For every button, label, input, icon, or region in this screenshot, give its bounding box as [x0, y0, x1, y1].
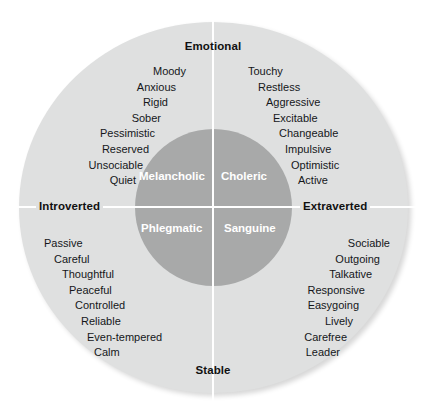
trait-item: Calm [44, 345, 214, 361]
trait-item: Peaceful [44, 283, 214, 299]
trait-list-choleric: TouchyRestlessAggressiveExcitableChangea… [248, 64, 416, 189]
trait-list-melancholic: MoodyAnxiousRigidSoberPessimisticReserve… [22, 64, 186, 189]
trait-item: Sociable [226, 236, 390, 252]
trait-item: Excitable [248, 111, 416, 127]
trait-item: Pessimistic [22, 126, 186, 142]
trait-item: Rigid [22, 95, 186, 111]
trait-item: Anxious [22, 80, 186, 96]
trait-item: Quiet [22, 173, 186, 189]
trait-item: Unsociable [22, 158, 186, 174]
trait-item: Even-tempered [44, 330, 214, 346]
trait-item: Changeable [248, 126, 416, 142]
temperament-diagram: Emotional Stable Introverted Extraverted… [0, 0, 426, 418]
temperament-label-phlegmatic: Phlegmatic [141, 222, 202, 234]
trait-item: Leader [226, 345, 390, 361]
trait-item: Passive [44, 236, 214, 252]
trait-item: Carefree [226, 330, 390, 346]
trait-item: Moody [22, 64, 186, 80]
trait-item: Reliable [44, 314, 214, 330]
trait-item: Restless [248, 80, 416, 96]
trait-item: Responsive [226, 283, 390, 299]
trait-item: Lively [226, 314, 390, 330]
trait-item: Impulsive [248, 142, 416, 158]
trait-item: Active [248, 173, 416, 189]
axis-label-stable: Stable [0, 364, 426, 376]
trait-item: Thoughtful [44, 267, 214, 283]
trait-item: Aggressive [248, 95, 416, 111]
axis-label-introverted: Introverted [36, 200, 103, 212]
trait-item: Talkative [226, 267, 390, 283]
trait-item: Controlled [44, 298, 214, 314]
trait-item: Touchy [248, 64, 416, 80]
temperament-label-sanguine: Sanguine [224, 222, 276, 234]
axis-label-extraverted: Extraverted [300, 200, 370, 212]
trait-item: Outgoing [226, 252, 390, 268]
trait-item: Optimistic [248, 158, 416, 174]
trait-item: Easygoing [226, 298, 390, 314]
trait-list-sanguine: SociableOutgoingTalkativeResponsiveEasyg… [226, 236, 390, 361]
trait-list-phlegmatic: PassiveCarefulThoughtfulPeacefulControll… [44, 236, 214, 361]
trait-item: Reserved [22, 142, 186, 158]
axis-label-emotional: Emotional [0, 40, 426, 52]
trait-item: Careful [44, 252, 214, 268]
trait-item: Sober [22, 111, 186, 127]
